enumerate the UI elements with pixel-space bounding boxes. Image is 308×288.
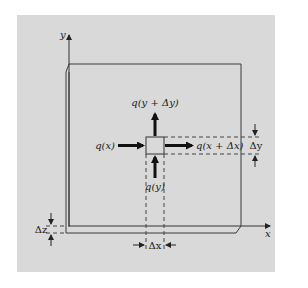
heat-flux-diagram: y x [0,0,308,288]
y-axis-label: y [59,29,66,40]
label-dz: Δz [35,224,48,235]
label-q-y-dy: q(y + Δy) [131,97,179,108]
label-dx: Δx [149,240,162,251]
label-dy: Δy [250,140,263,151]
x-axis-label: x [265,228,271,239]
label-q-x: q(x) [95,140,115,151]
label-q-x-dx: q(x + Δx) [196,140,244,151]
control-volume-element [146,137,164,154]
label-q-y: q(y) [145,181,165,192]
